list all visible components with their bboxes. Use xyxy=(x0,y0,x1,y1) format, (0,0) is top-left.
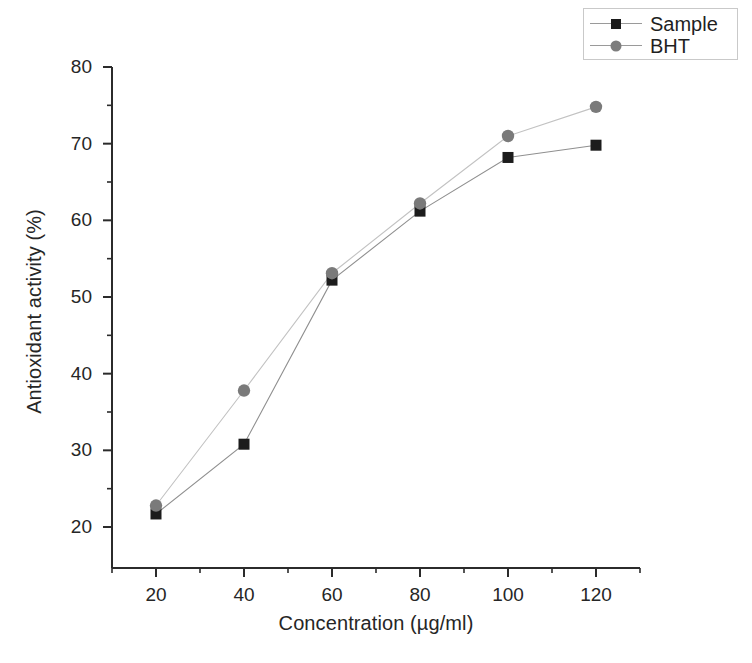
data-point-sample xyxy=(503,152,514,163)
x-tick-label: 60 xyxy=(321,584,342,606)
data-point-sample xyxy=(239,439,250,450)
y-tick-label: 30 xyxy=(52,439,92,461)
series-line-sample xyxy=(156,145,596,514)
y-tick-label: 70 xyxy=(52,133,92,155)
series-points xyxy=(150,101,602,520)
legend-item-bht: BHT xyxy=(584,35,737,57)
x-tick-label: 80 xyxy=(409,584,430,606)
data-point-bht xyxy=(414,197,426,209)
circle-marker-icon xyxy=(611,41,622,52)
y-axis-ticks xyxy=(103,67,112,527)
legend-label-bht: BHT xyxy=(650,36,690,56)
series-lines xyxy=(156,107,596,514)
data-point-bht xyxy=(238,384,250,396)
data-point-bht xyxy=(326,267,338,279)
square-marker-icon xyxy=(611,19,621,29)
legend-sample-swatch xyxy=(590,17,642,31)
data-point-bht xyxy=(502,130,514,142)
y-tick-label: 80 xyxy=(52,56,92,78)
x-axis-ticks xyxy=(112,568,640,577)
y-tick-label: 50 xyxy=(52,286,92,308)
axes xyxy=(112,67,640,568)
y-tick-label: 40 xyxy=(52,363,92,385)
data-point-sample xyxy=(591,140,602,151)
x-tick-label: 100 xyxy=(492,584,524,606)
data-point-bht xyxy=(150,499,162,511)
y-tick-label: 60 xyxy=(52,209,92,231)
legend-item-sample: Sample xyxy=(584,13,737,35)
x-axis-title: Concentration (µg/ml) xyxy=(0,612,752,635)
plot-canvas xyxy=(0,0,752,663)
legend-label-sample: Sample xyxy=(650,14,718,34)
legend-bht-swatch xyxy=(590,39,642,53)
y-axis-title: Antioxidant activity (%) xyxy=(23,209,45,414)
x-tick-label: 40 xyxy=(233,584,254,606)
data-point-bht xyxy=(590,101,602,113)
x-tick-label: 20 xyxy=(145,584,166,606)
y-tick-label: 20 xyxy=(52,516,92,538)
series-line-bht xyxy=(156,107,596,506)
x-tick-label: 120 xyxy=(580,584,612,606)
legend: Sample BHT xyxy=(583,8,738,60)
y-axis-title-wrapper: Antioxidant activity (%) xyxy=(23,92,46,532)
antioxidant-activity-chart: 20304050607080 20406080100120 Antioxidan… xyxy=(0,0,752,663)
